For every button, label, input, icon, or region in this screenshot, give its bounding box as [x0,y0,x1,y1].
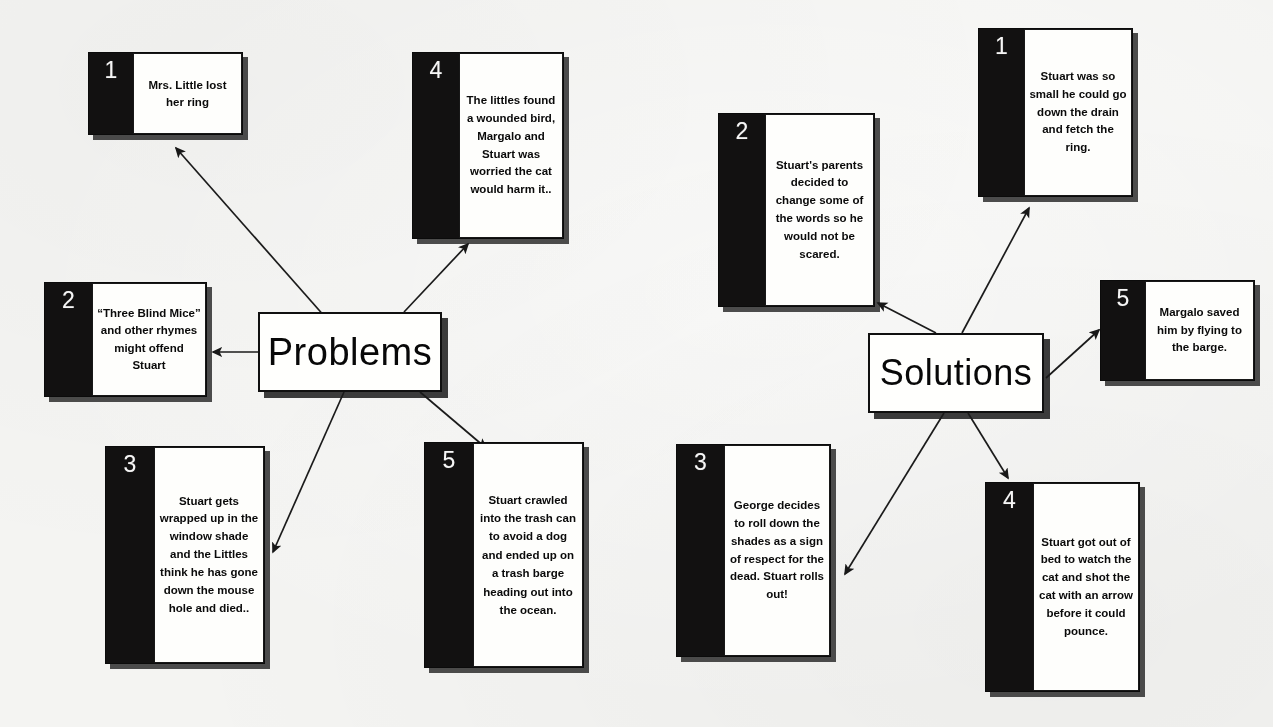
solutions-to-1 [962,208,1029,333]
hub-problems[interactable]: Problems [258,312,442,392]
problem-card-4-text: The littles found a wounded bird, Margal… [460,90,562,201]
solution-card-3-number: 3 [677,445,724,656]
problem-card-5-text: Stuart crawled into the trash can to avo… [474,489,582,622]
solution-card-5-number: 5 [1101,281,1145,380]
hub-solutions-label: Solutions [880,352,1033,394]
solution-card-2[interactable]: 2 Stuart's parents decided to change som… [718,113,875,307]
solution-card-4-text: Stuart got out of bed to watch the cat a… [1034,532,1138,643]
solution-card-2-number: 2 [719,114,765,306]
solution-card-1-text: Stuart was so small he could go down the… [1025,66,1131,159]
solution-card-2-body: Stuart's parents decided to change some … [765,114,874,306]
solutions-to-3 [845,413,944,574]
problem-card-4-number: 4 [413,53,459,238]
problem-card-2-number: 2 [45,283,92,396]
problem-card-5[interactable]: 5 Stuart crawled into the trash can to a… [424,442,584,668]
hub-problems-label: Problems [268,331,433,374]
solution-card-4-number: 4 [986,483,1033,691]
problem-card-2-body: “Three Blind Mice” and other rhymes migh… [92,283,206,396]
problem-card-4[interactable]: 4 The littles found a wounded bird, Marg… [412,52,564,239]
solution-card-5-text: Margalo saved him by flying to the barge… [1146,302,1253,359]
solution-card-2-text: Stuart's parents decided to change some … [766,155,873,266]
problem-card-5-body: Stuart crawled into the trash can to avo… [473,443,583,667]
problem-card-3-number: 3 [106,447,154,663]
problem-card-4-body: The littles found a wounded bird, Margal… [459,53,563,238]
solution-card-3-body: George decides to roll down the shades a… [724,445,830,656]
problem-card-1-number: 1 [89,53,133,134]
solution-card-1-number: 1 [979,29,1024,196]
problems-to-5 [420,392,486,448]
problem-card-5-number: 5 [425,443,473,667]
problem-card-1[interactable]: 1 Mrs. Little lost her ring [88,52,243,135]
problem-card-3-body: Stuart gets wrapped up in the window sha… [154,447,264,663]
solution-card-3[interactable]: 3 George decides to roll down the shades… [676,444,831,657]
problem-card-2-text: “Three Blind Mice” and other rhymes migh… [93,303,205,376]
graphic-organizer-canvas: Problems 1 Mrs. Little lost her ring 2 “… [0,0,1273,727]
solution-card-1[interactable]: 1 Stuart was so small he could go down t… [978,28,1133,197]
solution-card-4-body: Stuart got out of bed to watch the cat a… [1033,483,1139,691]
solution-card-1-body: Stuart was so small he could go down the… [1024,29,1132,196]
problem-card-3[interactable]: 3 Stuart gets wrapped up in the window s… [105,446,265,664]
problems-to-3 [273,392,344,552]
problem-card-2[interactable]: 2 “Three Blind Mice” and other rhymes mi… [44,282,207,397]
problem-card-1-body: Mrs. Little lost her ring [133,53,242,134]
problem-card-3-text: Stuart gets wrapped up in the window sha… [155,491,263,620]
problems-to-4 [404,244,468,312]
hub-solutions[interactable]: Solutions [868,333,1044,413]
solution-card-4[interactable]: 4 Stuart got out of bed to watch the cat… [985,482,1140,692]
solutions-to-5 [1046,330,1099,378]
problem-card-1-text: Mrs. Little lost her ring [134,75,241,112]
solution-card-5[interactable]: 5 Margalo saved him by flying to the bar… [1100,280,1255,381]
solution-card-3-text: George decides to roll down the shades a… [725,495,829,606]
solutions-to-2 [878,303,936,333]
solution-card-5-body: Margalo saved him by flying to the barge… [1145,281,1254,380]
solutions-to-4 [968,413,1008,478]
